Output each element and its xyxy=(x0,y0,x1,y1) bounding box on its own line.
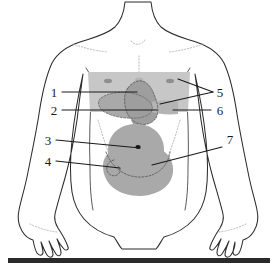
label-1: 1 xyxy=(51,85,58,100)
anatomy-figure: 1 2 3 4 5 6 7 xyxy=(0,0,278,272)
band-mark-right xyxy=(166,79,174,83)
bottom-rule xyxy=(8,258,270,263)
label-3: 3 xyxy=(45,133,52,148)
band-mark-left xyxy=(104,79,112,83)
label-7: 7 xyxy=(227,132,234,147)
torso-diagram: 1 2 3 4 5 6 7 xyxy=(0,0,278,272)
label-5: 5 xyxy=(217,85,224,100)
label-4: 4 xyxy=(45,154,52,169)
label-6: 6 xyxy=(217,103,224,118)
label-2: 2 xyxy=(51,103,58,118)
